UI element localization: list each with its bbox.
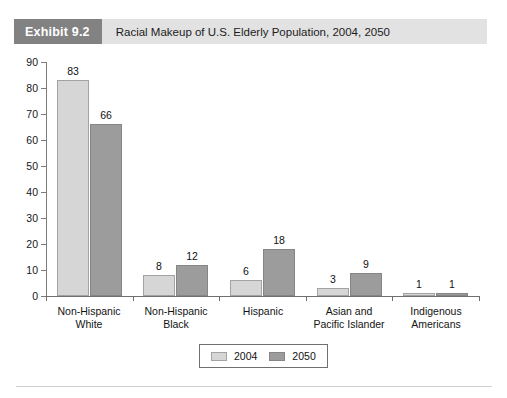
legend-label: 2050 [292, 351, 315, 362]
bar-2004-4[interactable] [403, 293, 435, 296]
footer-divider [16, 386, 492, 387]
legend-label: 2004 [234, 351, 257, 362]
y-axis-tick-label-0: 0 [14, 296, 38, 297]
bar-2050-4[interactable] [436, 293, 468, 296]
x-axis-tick-0 [46, 296, 47, 301]
bar-value-label: 1 [436, 279, 468, 290]
chart-plot-area: 0102030405060708090 83668126183911 Non-H… [0, 0, 507, 398]
x-axis-category-label-4: IndigenousAmericans [381, 305, 491, 331]
legend-swatch-2050 [269, 352, 285, 361]
legend-item-2004[interactable]: 2004 [211, 351, 257, 362]
category-label-line: Black [121, 318, 231, 331]
category-label-line: Indigenous [381, 305, 491, 318]
x-axis-tick-3 [306, 296, 307, 301]
x-axis-line [46, 296, 479, 297]
x-axis-tick-1 [133, 296, 134, 301]
x-axis-tick-5 [479, 296, 480, 301]
chart-legend: 20042050 [199, 344, 328, 368]
x-axis-tick-4 [392, 296, 393, 301]
bar-value-label: 1 [403, 279, 435, 290]
legend-item-2050[interactable]: 2050 [269, 351, 315, 362]
legend-swatch-2004 [211, 352, 227, 361]
bar-group [0, 0, 507, 296]
category-label-line: Americans [381, 318, 491, 331]
x-axis-tick-2 [219, 296, 220, 301]
